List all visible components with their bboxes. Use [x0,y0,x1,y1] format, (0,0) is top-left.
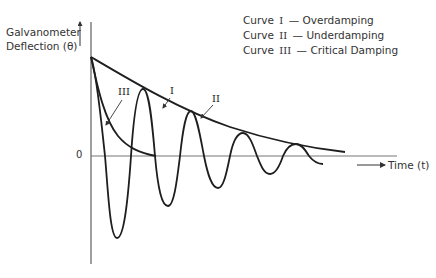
y-axis-label: Galvanometer Deflection (θ) [6,25,81,53]
curve-overdamping [91,57,345,152]
curve-underdamping [91,57,323,238]
curve-label-II: II [212,93,220,104]
label-II-pointer [201,105,213,118]
zero-label: 0 [76,149,82,160]
y-axis-label-line2: Deflection (θ) [6,39,81,53]
curve-label-I: I [170,85,174,96]
legend-item-critical-damping: Curve III — Critical Damping [243,43,398,58]
y-axis-label-line1: Galvanometer [6,25,81,39]
curve-label-III: III [118,86,130,97]
curve-critical-damping [91,57,156,156]
legend-item-underdamping: Curve II — Underdamping [243,28,398,43]
x-axis-label: Time (t) [388,159,429,171]
label-III-pointer [106,100,122,125]
legend: Curve I — Overdamping Curve II — Underda… [243,13,398,58]
legend-item-overdamping: Curve I — Overdamping [243,13,398,28]
